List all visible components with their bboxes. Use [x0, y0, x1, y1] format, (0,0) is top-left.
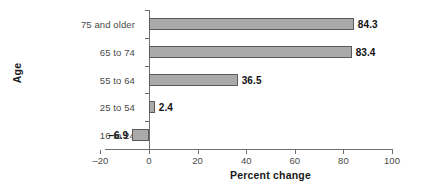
y-tick-mark — [145, 93, 149, 94]
category-label: 65 to 74 — [100, 46, 135, 57]
bar — [149, 46, 352, 58]
y-tick-mark — [145, 10, 149, 11]
x-tick-mark — [149, 150, 150, 154]
x-tick-label: –20 — [92, 155, 108, 166]
x-tick-mark — [392, 150, 393, 154]
plot-area: 16 to 2425 to 5455 to 6465 to 7475 and o… — [0, 0, 427, 189]
bar-value-label: 36.5 — [242, 74, 262, 85]
x-tick-mark — [295, 150, 296, 154]
x-tick-label: 20 — [192, 155, 203, 166]
bar-value-label: 83.4 — [356, 46, 376, 57]
x-tick-mark — [198, 150, 199, 154]
x-axis-title: Percent change — [149, 169, 392, 181]
y-tick-mark — [145, 121, 149, 122]
bar-value-label: 84.3 — [358, 18, 378, 29]
x-tick-label: 60 — [290, 155, 301, 166]
bar-value-label: 2.4 — [159, 102, 173, 113]
bar — [149, 18, 354, 30]
x-tick-label: 40 — [241, 155, 252, 166]
bar-value-label: –6.9 — [108, 130, 128, 141]
bar — [149, 74, 238, 86]
percent-change-by-age-bar-chart: Age 16 to 2425 to 5455 to 6465 to 7475 a… — [0, 0, 427, 189]
x-tick-label: 0 — [146, 155, 151, 166]
category-label: 25 to 54 — [100, 102, 135, 113]
x-tick-label: 100 — [384, 155, 400, 166]
y-tick-mark — [145, 38, 149, 39]
bar — [132, 129, 149, 141]
category-label: 75 and older — [81, 18, 135, 29]
x-tick-mark — [100, 150, 101, 154]
bar — [149, 101, 155, 113]
x-tick-mark — [343, 150, 344, 154]
x-tick-label: 80 — [338, 155, 349, 166]
x-tick-mark — [246, 150, 247, 154]
category-label: 55 to 64 — [100, 74, 135, 85]
y-tick-mark — [145, 66, 149, 67]
